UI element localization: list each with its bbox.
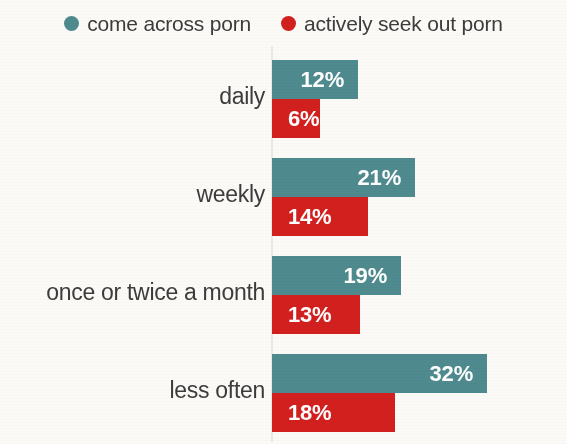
bar-value-label: 6% (288, 108, 319, 130)
legend-label-actively-seek-out-porn: actively seek out porn (304, 13, 503, 34)
bar-come-across-porn-weekly: 21% (272, 158, 415, 197)
bar-actively-seek-out-porn-daily: 6% (272, 99, 320, 138)
bar-group-weekly: weekly 21% 14% (0, 148, 567, 240)
category-label-weekly: weekly (0, 148, 265, 240)
bar-come-across-porn-once-or-twice-a-month: 19% (272, 256, 401, 295)
bar-actively-seek-out-porn-once-or-twice-a-month: 13% (272, 295, 360, 334)
legend-circle-marker-red (281, 16, 296, 31)
bar-value-label: 32% (430, 363, 473, 385)
bar-actively-seek-out-porn-less-often: 18% (272, 393, 395, 432)
bar-group-less-often: less often 32% 18% (0, 344, 567, 436)
bar-value-label: 13% (288, 304, 331, 326)
bar-value-label: 12% (301, 69, 344, 91)
chart-legend: come across porn actively seek out porn (0, 6, 567, 40)
bar-chart: come across porn actively seek out porn … (0, 0, 567, 444)
category-label-once-or-twice-a-month: once or twice a month (0, 246, 265, 338)
category-label-daily: daily (0, 50, 265, 142)
plot-area: daily 12% 6% weekly 21% 14% once or twic… (0, 44, 567, 444)
bar-group-once-or-twice-a-month: once or twice a month 19% 13% (0, 246, 567, 338)
category-label-less-often: less often (0, 344, 265, 436)
bar-value-label: 21% (358, 167, 401, 189)
bar-come-across-porn-less-often: 32% (272, 354, 487, 393)
bar-value-label: 18% (288, 402, 331, 424)
bar-value-label: 19% (344, 265, 387, 287)
bar-value-label: 14% (288, 206, 331, 228)
legend-item-come-across-porn: come across porn (64, 13, 251, 34)
bar-actively-seek-out-porn-weekly: 14% (272, 197, 368, 236)
legend-item-actively-seek-out-porn: actively seek out porn (281, 13, 503, 34)
legend-circle-marker-teal (64, 16, 79, 31)
legend-label-come-across-porn: come across porn (87, 13, 251, 34)
bar-group-daily: daily 12% 6% (0, 50, 567, 142)
bar-come-across-porn-daily: 12% (272, 60, 358, 99)
